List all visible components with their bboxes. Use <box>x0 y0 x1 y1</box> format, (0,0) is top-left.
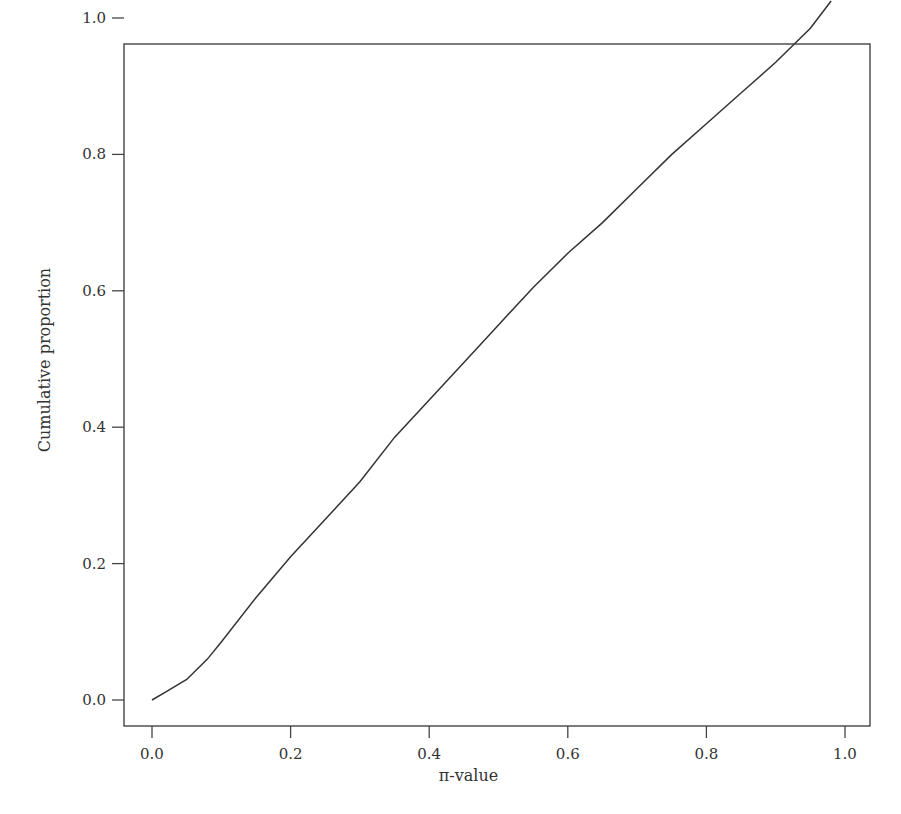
x-tick-label: 0.4 <box>417 745 441 763</box>
cumulative-curve <box>152 1 831 700</box>
y-tick-label: 0.8 <box>82 145 106 163</box>
x-axis: 0.00.20.40.60.81.0 <box>140 726 857 763</box>
x-tick-label: 1.0 <box>833 745 857 763</box>
y-tick-label: 0.0 <box>82 691 106 709</box>
x-axis-title: π-value <box>439 766 498 785</box>
y-tick-label: 0.2 <box>82 555 106 573</box>
x-tick-label: 0.8 <box>694 745 718 763</box>
cumulative-proportion-chart: 0.00.20.40.60.81.0 0.00.20.40.60.81.0 π-… <box>0 0 901 814</box>
y-tick-label: 0.6 <box>82 282 106 300</box>
x-tick-label: 0.0 <box>140 745 164 763</box>
y-tick-label: 1.0 <box>82 9 106 27</box>
y-axis: 0.00.20.40.60.81.0 <box>82 9 124 709</box>
y-axis-title: Cumulative proportion <box>35 268 54 452</box>
x-tick-label: 0.6 <box>556 745 580 763</box>
x-tick-label: 0.2 <box>279 745 303 763</box>
y-tick-label: 0.4 <box>82 418 106 436</box>
